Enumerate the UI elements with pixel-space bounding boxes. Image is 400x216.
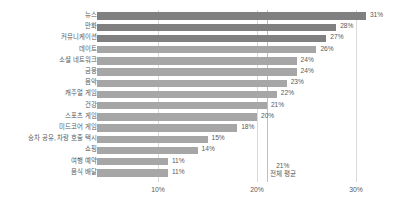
category-label: 금융 <box>0 66 97 76</box>
category-label: 여행 예약 <box>0 156 97 166</box>
bar-value-label: 31% <box>370 10 383 20</box>
bar <box>97 35 326 42</box>
category-label: 스포츠 게임 <box>0 111 97 121</box>
bar <box>97 136 208 143</box>
bar-row: 미드코어 게임18% <box>0 123 400 133</box>
category-label: 쇼핑 <box>0 144 97 154</box>
bar-row: 뉴스31% <box>0 11 400 21</box>
bar-value-label: 22% <box>281 88 294 98</box>
bar-row: 소셜 네트워크24% <box>0 56 400 66</box>
bar-row: 커뮤니케이션27% <box>0 33 400 43</box>
bar <box>97 124 237 131</box>
x-tick-label: 30% <box>349 186 363 193</box>
bar-value-label: 23% <box>291 77 304 87</box>
x-axis: 10%20%30% <box>0 186 400 202</box>
category-label: 소셜 네트워크 <box>0 55 97 65</box>
bar-row: 데이트26% <box>0 45 400 55</box>
bar <box>97 169 168 176</box>
bar-value-label: 28% <box>340 21 353 31</box>
bar-value-label: 11% <box>172 167 185 177</box>
category-label: 만화 <box>0 21 97 31</box>
category-label: 건강 <box>0 100 97 110</box>
bar <box>97 68 297 75</box>
bar <box>97 158 168 165</box>
bar <box>97 147 198 154</box>
bar-row: 만화28% <box>0 22 400 32</box>
x-tick-label: 20% <box>250 186 264 193</box>
category-label: 뉴스 <box>0 10 97 20</box>
category-label: 캐주얼 게임 <box>0 88 97 98</box>
bar <box>97 12 366 19</box>
bar-value-label: 26% <box>320 44 333 54</box>
bar-chart: 뉴스31%만화28%커뮤니케이션27%데이트26%소셜 네트워크24%금융24%… <box>0 0 400 216</box>
bar <box>97 46 316 53</box>
bar-value-label: 24% <box>301 66 314 76</box>
bar-row: 음악23% <box>0 78 400 88</box>
bar-row: 여행 예약11% <box>0 157 400 167</box>
bar <box>97 91 277 98</box>
average-caption: 전체 평균 <box>270 170 296 178</box>
bar <box>97 80 287 87</box>
bar-value-label: 18% <box>241 122 254 132</box>
bar-value-label: 14% <box>202 144 215 154</box>
bar-row: 쇼핑14% <box>0 145 400 155</box>
plot-area: 뉴스31%만화28%커뮤니케이션27%데이트26%소셜 네트워크24%금융24%… <box>0 10 400 182</box>
category-label: 데이트 <box>0 44 97 54</box>
category-label: 승차 공유, 차량 호출 택시 <box>0 133 97 143</box>
bar-row: 스포츠 게임20% <box>0 112 400 122</box>
x-tick-label: 10% <box>151 186 165 193</box>
bar-row: 음식 배달11% <box>0 168 400 178</box>
bar <box>97 113 257 120</box>
bar <box>97 24 336 31</box>
bar <box>97 102 267 109</box>
bar-value-label: 15% <box>212 133 225 143</box>
bar-value-label: 11% <box>172 156 185 166</box>
bar-value-label: 20% <box>261 111 274 121</box>
category-label: 음악 <box>0 77 97 87</box>
bar-row: 승차 공유, 차량 호출 택시15% <box>0 134 400 144</box>
bar <box>97 57 297 64</box>
bar-value-label: 24% <box>301 55 314 65</box>
bar-row: 캐주얼 게임22% <box>0 89 400 99</box>
category-label: 커뮤니케이션 <box>0 32 97 42</box>
bar-row: 건강21% <box>0 101 400 111</box>
category-label: 음식 배달 <box>0 167 97 177</box>
bar-row: 금융24% <box>0 67 400 77</box>
average-annotation: 21% 전체 평균 <box>270 162 296 179</box>
category-label: 미드코어 게임 <box>0 122 97 132</box>
bar-value-label: 27% <box>330 32 343 42</box>
bar-value-label: 21% <box>271 100 284 110</box>
